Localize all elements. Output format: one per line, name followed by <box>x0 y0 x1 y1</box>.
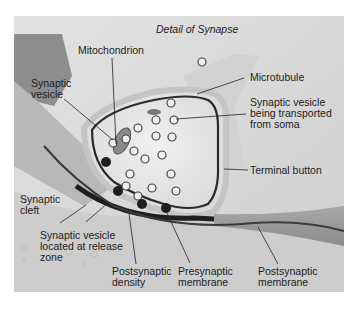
label-terminal-button: Terminal button <box>250 165 322 176</box>
diagram-title: Detail of Synapse <box>156 24 238 35</box>
label-mitochondrion: Mitochondrion <box>78 45 144 56</box>
label-synaptic-cleft: Synaptic cleft <box>20 194 60 216</box>
mitochondrion-small <box>147 109 161 115</box>
label-vesicle-release-zone: Synaptic vesicle located at release zone <box>40 230 123 263</box>
label-synaptic-vesicle: Synaptic vesicle <box>31 78 71 100</box>
synapse-diagram: Detail of Synapse Mitochondrion Synaptic… <box>14 16 344 292</box>
label-postsynaptic-density: Postsynaptic density <box>112 266 172 288</box>
label-vesicle-transported: Synaptic vesicle being transported from … <box>250 97 332 130</box>
label-presynaptic-membrane: Presynaptic membrane <box>178 266 233 288</box>
label-microtubule: Microtubule <box>250 72 304 83</box>
label-postsynaptic-membrane: Postsynaptic membrane <box>258 266 318 288</box>
